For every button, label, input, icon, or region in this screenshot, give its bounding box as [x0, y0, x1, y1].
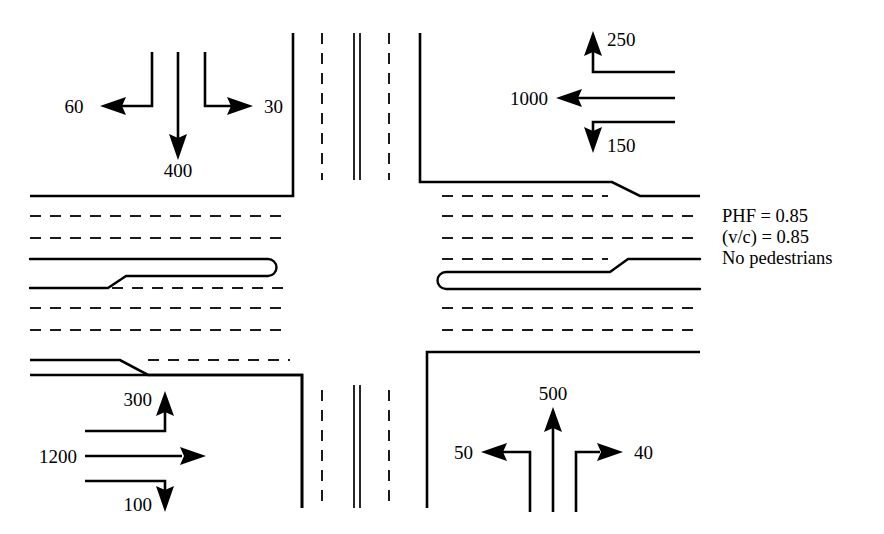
flow-east-up	[593, 50, 675, 72]
note-phf: PHF = 0.85	[722, 206, 832, 227]
curb-southeast	[427, 352, 700, 508]
flow-east-down	[593, 122, 675, 131]
arrowhead-west-through	[180, 447, 206, 465]
flow-west-down	[85, 481, 165, 490]
flow-north-right	[205, 52, 231, 106]
median-island-west	[30, 259, 277, 288]
label-east-down: 150	[607, 135, 636, 156]
median-island-east	[438, 259, 701, 289]
note-pedestrians: No pedestrians	[722, 248, 832, 269]
flow-north-left	[122, 52, 152, 106]
label-east-up: 250	[607, 29, 636, 50]
label-west-down: 100	[124, 494, 153, 515]
notes-block: PHF = 0.85 (v/c) = 0.85 No pedestrians	[722, 206, 832, 269]
flow-south-right	[576, 452, 600, 512]
label-west-up: 300	[124, 389, 153, 410]
flow-west-up	[85, 412, 165, 431]
label-north-through: 400	[164, 160, 193, 181]
label-east-through: 1000	[510, 88, 548, 109]
label-south-left: 50	[454, 442, 473, 463]
label-south-right: 40	[634, 442, 653, 463]
label-north-left: 60	[65, 96, 84, 117]
flow-south-left	[503, 452, 530, 512]
note-vc: (v/c) = 0.85	[722, 227, 832, 248]
arrowhead-south-right	[597, 443, 623, 461]
label-west-through: 1200	[39, 446, 77, 467]
intersection-diagram: 60 400 30 250 1000 150 300 1200 100	[0, 0, 884, 534]
curb-northeast	[420, 33, 700, 196]
label-south-through: 500	[539, 383, 568, 404]
label-north-right: 30	[264, 96, 283, 117]
